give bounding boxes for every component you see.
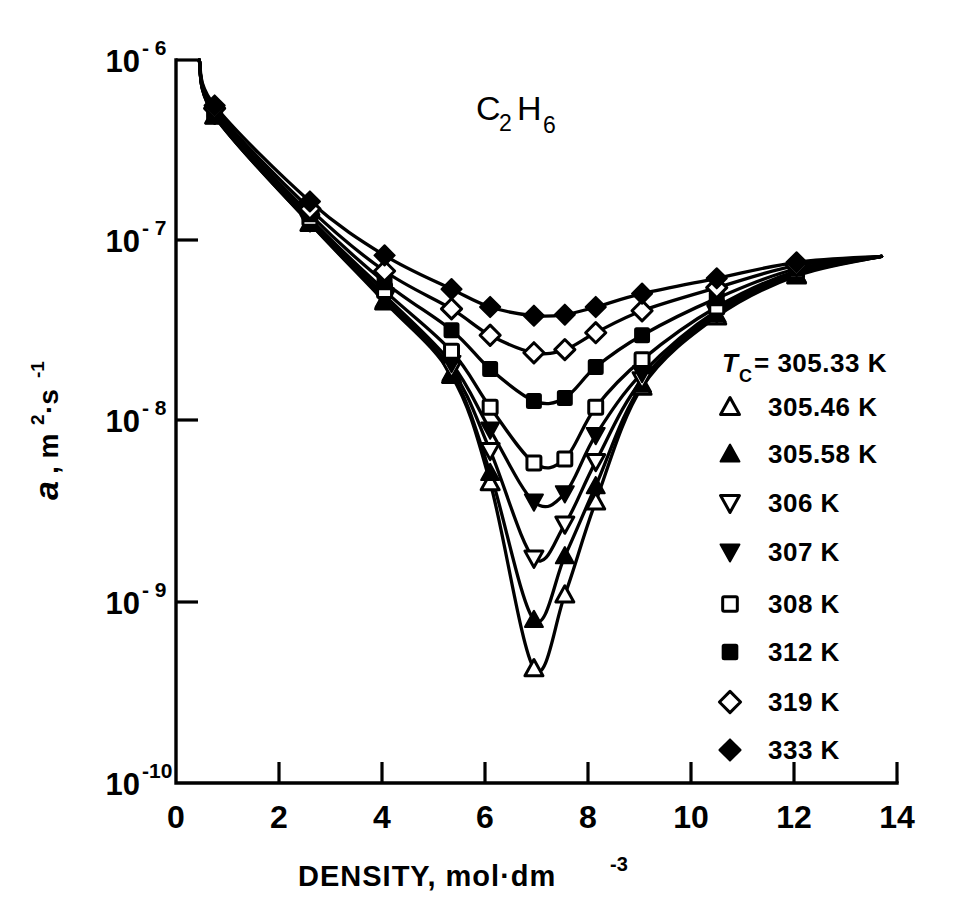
data-point (635, 353, 649, 367)
data-point (374, 245, 394, 265)
title-element-1: C (476, 89, 501, 127)
data-point (632, 284, 652, 304)
legend-label: 306 K (768, 488, 840, 518)
yaxis-title-mid2: ·s (33, 389, 64, 414)
ytick-label-1e-7-mantissa: 10 (106, 224, 140, 259)
ytick-label-1e-8-mantissa: 10 (106, 404, 140, 439)
yaxis-title-symbol: a (27, 481, 65, 500)
chart-title: C 2 H 6 (476, 89, 556, 138)
xtick-label-4: 4 (373, 799, 391, 835)
data-point (483, 362, 497, 376)
legend: T C = 305.33 K 305.46 K305.58 K306 K307 … (719, 348, 887, 765)
xtick-label-8: 8 (579, 799, 597, 835)
data-point (556, 586, 574, 602)
data-point (589, 400, 603, 414)
xaxis-title-sup: -3 (610, 853, 628, 875)
data-point (586, 297, 606, 317)
curve-306-K (199, 60, 881, 561)
ytick-label-1e-9-exp: - 9 (142, 578, 167, 601)
xtick-label-12: 12 (776, 799, 812, 835)
legend-tc-value: = 305.33 K (754, 348, 887, 378)
data-point (527, 456, 541, 470)
legend-label: 307 K (768, 537, 840, 567)
legend-marker-square-filled (723, 645, 738, 660)
xaxis-title-text: DENSITY, mol·dm (298, 860, 556, 892)
data-point (525, 494, 543, 510)
legend-marker-triangle-up-filled (721, 445, 740, 462)
chart-svg: 10 - 6 10 - 7 10 - 8 10 - 9 10 -10 0 2 4… (0, 0, 955, 912)
x-tick-labels: 0 2 4 6 8 10 12 14 (167, 799, 915, 835)
legend-item-305-46-K: 305.46 K (721, 392, 878, 422)
y-axis-ticks (176, 240, 198, 602)
ytick-label-1e-7-exp: - 7 (142, 216, 167, 239)
legend-item-333-K: 333 K (719, 735, 839, 765)
title-element-2: H (517, 89, 542, 127)
legend-marker-square-open (723, 597, 738, 612)
data-point (524, 343, 544, 363)
legend-item-319-K: 319 K (719, 687, 839, 717)
chart-figure: 10 - 6 10 - 7 10 - 8 10 - 9 10 -10 0 2 4… (0, 0, 955, 912)
ytick-label-1e-10-mantissa: 10 (106, 767, 140, 802)
ytick-label-1e-6-exp: - 6 (142, 36, 167, 59)
legend-marker-diamond-filled (719, 739, 740, 760)
data-point (524, 306, 544, 326)
data-point (556, 517, 574, 533)
legend-label: 305.46 K (768, 392, 878, 422)
y-axis-title: a , m 2 ·s -1 (27, 361, 65, 500)
legend-label: 319 K (768, 687, 840, 717)
legend-item-308-K: 308 K (723, 589, 840, 619)
ytick-label-1e-9-mantissa: 10 (106, 586, 140, 621)
legend-item-307-K: 307 K (721, 537, 840, 567)
xtick-label-2: 2 (270, 799, 288, 835)
data-point (483, 400, 497, 414)
data-point (525, 611, 543, 627)
data-point (480, 325, 500, 345)
legend-marker-diamond-open (719, 691, 740, 712)
data-point (586, 323, 606, 343)
data-point (480, 297, 500, 317)
data-point (441, 299, 461, 319)
data-point (555, 339, 575, 359)
data-point (556, 547, 574, 563)
legend-label: 333 K (768, 735, 840, 765)
x-axis-title: DENSITY, mol·dm -3 (298, 853, 628, 892)
legend-marker-triangle-down-open (721, 495, 740, 512)
xtick-label-6: 6 (476, 799, 494, 835)
legend-item-tc: T C = 305.33 K (722, 348, 887, 386)
xtick-label-10: 10 (673, 799, 709, 835)
xtick-label-0: 0 (167, 799, 185, 835)
data-point (525, 551, 543, 567)
ytick-label-1e-6-mantissa: 10 (106, 44, 140, 79)
legend-marker-triangle-up-open (721, 398, 740, 415)
data-point (525, 660, 543, 676)
markers-305-46-K (206, 107, 806, 676)
data-point (558, 391, 572, 405)
yaxis-title-sup1: 2 (27, 414, 48, 425)
legend-label: 312 K (768, 637, 840, 667)
data-point (445, 323, 459, 337)
legend-item-305-58-K: 305.58 K (721, 439, 878, 469)
legend-item-312-K: 312 K (723, 637, 840, 667)
xtick-label-14: 14 (879, 799, 915, 835)
x-axis-ticks (279, 762, 794, 783)
data-point (558, 452, 572, 466)
data-point (527, 394, 541, 408)
markers-306-K (206, 107, 806, 567)
data-point (587, 428, 605, 444)
title-sub-1: 2 (499, 110, 512, 136)
data-point (445, 344, 459, 358)
data-point (589, 360, 603, 374)
data-point (555, 305, 575, 325)
legend-label: 305.58 K (768, 439, 878, 469)
ytick-label-1e-8-exp: - 8 (142, 396, 167, 419)
legend-tc-symbol: T (722, 348, 740, 378)
yaxis-title-mid: , m (33, 434, 64, 474)
legend-rows: 305.46 K305.58 K306 K307 K308 K312 K319 … (719, 392, 877, 765)
data-markers (205, 95, 807, 675)
legend-item-306-K: 306 K (721, 488, 840, 518)
data-point (635, 328, 649, 342)
y-tick-labels: 10 - 6 10 - 7 10 - 8 10 - 9 10 -10 (106, 36, 173, 802)
ytick-label-1e-10-exp: -10 (142, 759, 172, 782)
yaxis-title-sup2: -1 (27, 361, 48, 378)
markers-312-K (208, 104, 804, 408)
